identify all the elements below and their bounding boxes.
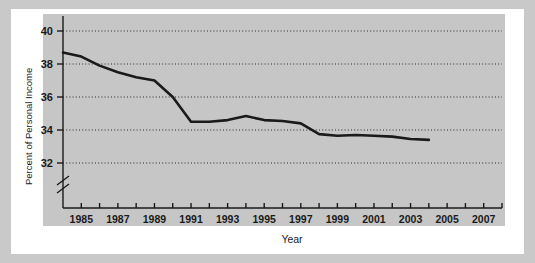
- x-tick-marks-group: [81, 203, 502, 208]
- x-tick-label-1985: 1985: [70, 213, 94, 225]
- y-tick-label-40: 40: [41, 25, 53, 37]
- x-tick-label-2003: 2003: [399, 213, 423, 225]
- y-tick-label-34: 34: [41, 124, 54, 136]
- y-tick-labels-group: 3234363840: [41, 25, 54, 169]
- x-tick-label-1987: 1987: [106, 213, 130, 225]
- x-axis-title: Year: [281, 233, 303, 245]
- x-tick-label-1989: 1989: [143, 213, 167, 225]
- axes-group: [57, 16, 502, 208]
- line-chart: 3234363840 19851987198919911993199519971…: [0, 0, 535, 263]
- x-tick-labels-group: 1985198719891991199319951997199920012003…: [70, 213, 496, 225]
- x-tick-label-1993: 1993: [216, 213, 240, 225]
- y-tick-label-36: 36: [41, 91, 53, 103]
- data-series-line: [63, 52, 429, 139]
- y-tick-label-32: 32: [41, 157, 53, 169]
- y-tick-label-38: 38: [41, 58, 53, 70]
- x-tick-label-1991: 1991: [179, 213, 203, 225]
- x-tick-label-2007: 2007: [472, 213, 496, 225]
- x-tick-label-1997: 1997: [289, 213, 313, 225]
- x-tick-label-2001: 2001: [362, 213, 386, 225]
- chart-screenshot: 3234363840 19851987198919911993199519971…: [0, 0, 535, 263]
- x-tick-label-1995: 1995: [253, 213, 277, 225]
- y-tick-marks-group: [57, 31, 63, 163]
- x-tick-label-1999: 1999: [326, 213, 350, 225]
- y-axis-title: Percent of Personal Income: [23, 68, 34, 185]
- x-tick-label-2005: 2005: [435, 213, 459, 225]
- gridlines-group: [63, 31, 502, 163]
- plot-wrapper: 3234363840 19851987198919911993199519971…: [0, 0, 535, 263]
